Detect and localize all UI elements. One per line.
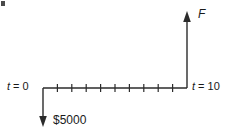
timeline-start-equals: = bbox=[10, 80, 23, 92]
timeline-end-equals: = bbox=[195, 80, 208, 92]
future-value-label: F bbox=[198, 8, 205, 20]
timeline-end-label: t = 10 bbox=[192, 81, 220, 92]
timeline-start-value: 0 bbox=[23, 80, 29, 92]
future-value-arrow bbox=[183, 11, 191, 88]
deposit-arrow-head bbox=[39, 116, 47, 127]
timeline-end-value: 10 bbox=[208, 80, 220, 92]
cash-flow-diagram: t = 0 t = 10 F $5000 bbox=[0, 0, 230, 138]
future-value-arrow-head bbox=[183, 11, 191, 22]
deposit-arrow bbox=[39, 88, 47, 127]
cash-flow-graphic bbox=[0, 0, 230, 138]
timeline-start-label: t = 0 bbox=[7, 81, 29, 92]
deposit-amount-label: $5000 bbox=[53, 114, 86, 126]
